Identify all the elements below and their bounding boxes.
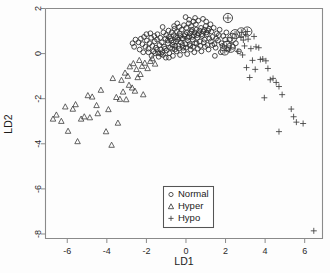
y-tick-label: 2	[33, 6, 43, 11]
x-tick-label: 4	[263, 246, 268, 256]
legend-label-hyper: Hyper	[178, 200, 203, 211]
y-axis-title: LD2	[2, 114, 14, 133]
x-tick-label: 0	[183, 246, 188, 256]
scatter-plot-figure: -6-4-2024620-2-4-6-8 LD1 LD2 NormalHyper…	[0, 0, 330, 273]
x-axis-title: LD1	[174, 255, 193, 267]
plot-canvas: -6-4-2024620-2-4-6-8 LD1 LD2 NormalHyper…	[0, 0, 330, 273]
y-tick-label: 0	[33, 51, 43, 56]
x-tick-label: -4	[103, 246, 111, 256]
legend[interactable]: NormalHyperHypo	[164, 187, 214, 228]
x-tick-label: 2	[223, 246, 228, 256]
legend-label-hypo: Hypo	[178, 212, 200, 223]
y-tick-label: -2	[33, 95, 43, 103]
y-tick-label: -4	[33, 140, 43, 148]
x-tick-label: 6	[302, 246, 307, 256]
x-tick-label: -2	[142, 246, 150, 256]
x-tick-label: -6	[63, 246, 71, 256]
legend-label-normal: Normal	[178, 188, 209, 199]
y-tick-label: -8	[33, 230, 43, 238]
y-tick-label: -6	[33, 185, 43, 193]
